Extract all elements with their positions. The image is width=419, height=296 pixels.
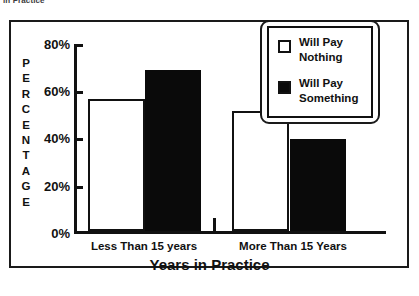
y-tick-label-40: 40% [30, 132, 70, 145]
clipped-caption-fragment: in Practice [3, 0, 45, 5]
x-axis-title: Years in Practice [0, 256, 419, 273]
bar-more-than-15-will-pay-something [290, 139, 346, 231]
y-axis-title-letter: T [18, 148, 34, 163]
bar-less-than-15-will-pay-something [145, 70, 201, 231]
legend: Will Pay Nothing Will Pay Something [258, 20, 382, 126]
y-axis-tick-80 [74, 44, 83, 47]
chart-screenshot: in Practice P E R C E N T A G E 80% 60% … [0, 0, 419, 296]
bar-less-than-15-will-pay-nothing [88, 99, 145, 231]
category-separator-tick [213, 218, 216, 231]
x-tick-label-less-than-15: Less Than 15 years [74, 240, 214, 252]
legend-item-will-pay-nothing: Will Pay Nothing [278, 35, 370, 71]
y-tick-label-80: 80% [30, 38, 70, 51]
y-axis-tick-20 [74, 186, 83, 189]
y-axis-tick-60 [74, 91, 83, 94]
legend-item-will-pay-something: Will Pay Something [278, 76, 370, 112]
y-axis-title-letter: E [18, 118, 34, 133]
y-axis-title-letter: A [18, 164, 34, 179]
legend-label-will-pay-nothing: Will Pay Nothing [299, 35, 371, 65]
x-tick-label-more-than-15: More Than 15 Years [218, 240, 368, 252]
y-axis-title-letter: E [18, 195, 34, 210]
legend-swatch-hollow-icon [278, 40, 291, 53]
y-tick-label-0: 0% [30, 227, 70, 240]
legend-label-line-1: Will Pay [299, 76, 371, 91]
bar-more-than-15-will-pay-nothing [232, 111, 289, 231]
legend-label-will-pay-something: Will Pay Something [299, 76, 371, 106]
legend-box: Will Pay Nothing Will Pay Something [267, 26, 373, 118]
legend-swatch-filled-icon [278, 81, 291, 94]
legend-label-line-2: Something [299, 91, 371, 106]
y-axis-tick-40 [74, 138, 83, 141]
y-tick-label-60: 60% [30, 85, 70, 98]
y-tick-label-20: 20% [30, 180, 70, 193]
y-axis-title-letter: C [18, 102, 34, 117]
legend-label-line-2: Nothing [299, 50, 371, 65]
legend-label-line-1: Will Pay [299, 35, 371, 50]
x-axis-line [74, 231, 386, 234]
y-axis-tick-0 [74, 231, 83, 234]
y-axis-title-letter: P [18, 56, 34, 71]
